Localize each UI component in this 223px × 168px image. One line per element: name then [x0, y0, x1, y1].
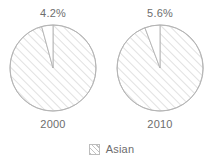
- pie-year-label-2010: 2010: [110, 117, 210, 131]
- pie-graphic-2010: [114, 22, 206, 114]
- chart-legend: Asian: [0, 143, 223, 155]
- pie-graphic-2000: [7, 22, 99, 114]
- pie-percentage-label-2010: 5.6%: [110, 6, 210, 20]
- pie-chart-2010: 5.6% 2010: [110, 6, 210, 131]
- legend-label-asian: Asian: [106, 143, 135, 155]
- pie-chart-2000: 4.2% 2000: [3, 6, 103, 131]
- pie-percentage-label-2000: 4.2%: [3, 6, 103, 20]
- pie-year-label-2000: 2000: [3, 117, 103, 131]
- pie-chart-figure: 4.2% 2000 5.6%: [0, 0, 223, 140]
- legend-swatch-asian: [89, 144, 100, 155]
